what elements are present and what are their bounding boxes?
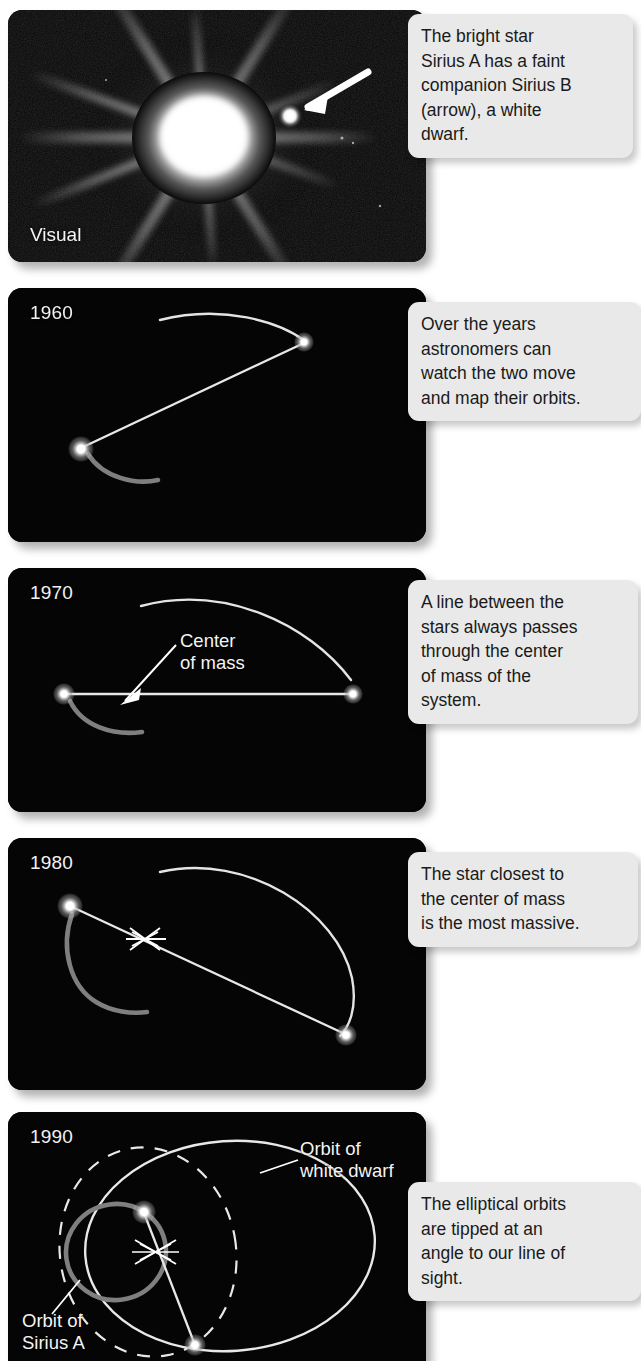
orbit-diagram-1970	[8, 568, 426, 812]
panel-1980: 1980	[8, 838, 426, 1090]
orbit-of-white-dwarf-label: Orbit of white dwarf	[300, 1138, 394, 1182]
center-of-mass-label: Center of mass	[180, 630, 245, 674]
year-label-1990: 1990	[30, 1126, 73, 1148]
year-label-1960: 1960	[30, 302, 73, 324]
callout-1960: Over the years astronomers can watch the…	[408, 302, 641, 421]
year-label-1970: 1970	[30, 582, 73, 604]
callout-1980: The star closest to the center of mass i…	[408, 852, 638, 947]
panel-1960: 1960	[8, 288, 426, 542]
callout-visual: The bright star Sirius A has a faint com…	[408, 14, 633, 158]
orbit-of-sirius-a-label: Orbit of Sirius A	[22, 1310, 85, 1354]
year-label-1980: 1980	[30, 852, 73, 874]
callout-1990: The elliptical orbits are tipped at an a…	[408, 1182, 641, 1301]
orbit-diagram-1960	[8, 288, 426, 542]
panel-1990: 1990 Orbit of white dwarf Orbit of Siriu…	[8, 1112, 426, 1361]
orbit-diagram-1980	[8, 838, 426, 1090]
visual-label: Visual	[30, 224, 81, 246]
panel-visual: Visual	[8, 10, 426, 262]
callout-1970: A line between the stars always passes t…	[408, 580, 638, 724]
panel-1970: 1970 Center of mass	[8, 568, 426, 812]
